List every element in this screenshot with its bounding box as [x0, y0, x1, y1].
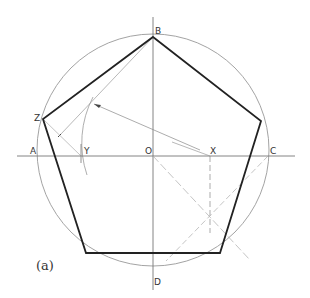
arrowhead-icon	[94, 104, 101, 108]
label-y: Y	[83, 146, 90, 156]
label-a: A	[30, 146, 37, 156]
line-b-to-y	[61, 37, 153, 134]
construction-arc-xb	[82, 97, 93, 175]
line-o-to-x	[172, 142, 210, 156]
label-b: B	[155, 26, 161, 36]
figure-caption: (a)	[36, 258, 54, 273]
label-z: Z	[34, 113, 40, 123]
pentagon	[43, 37, 261, 253]
pentagon-construction-diagram: B Z A Y O X C D (a)	[0, 0, 310, 298]
label-c: C	[270, 146, 276, 156]
label-o: O	[145, 146, 152, 156]
arrow-line	[94, 104, 200, 150]
label-x: X	[210, 146, 216, 156]
dashed-diagonal-o	[153, 156, 250, 260]
label-d: D	[154, 277, 161, 287]
